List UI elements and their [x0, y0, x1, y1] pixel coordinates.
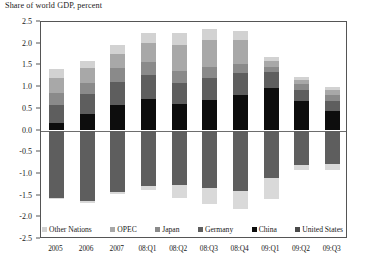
bar-segment[interactable] — [264, 88, 279, 130]
bar-group[interactable] — [264, 22, 279, 237]
bar-segment[interactable] — [80, 68, 95, 83]
y-axis: 2.52.01.51.00.50.0-0.5-1.0-1.5-2.0-2.5 — [0, 21, 38, 238]
plot-inner — [41, 22, 346, 237]
bar-segment[interactable] — [49, 93, 64, 105]
bar-segment[interactable] — [264, 178, 279, 199]
bar-segment[interactable] — [110, 131, 125, 193]
bar-segment[interactable] — [49, 105, 64, 123]
bar-segment[interactable] — [325, 90, 340, 95]
bar-segment[interactable] — [141, 62, 156, 75]
bar-segment[interactable] — [49, 69, 64, 79]
legend-swatch-icon — [252, 227, 257, 232]
bar-segment[interactable] — [264, 57, 279, 61]
bar-segment[interactable] — [172, 33, 187, 45]
bar-segment[interactable] — [294, 101, 309, 131]
bar-segment[interactable] — [172, 71, 187, 82]
bar-segment[interactable] — [233, 64, 248, 74]
bar-segment[interactable] — [80, 201, 95, 203]
x-axis: 20052006200708:Q108:Q208:Q308:Q409:Q109:… — [40, 239, 347, 256]
y-axis-label: 1.5 — [22, 60, 32, 69]
y-axis-label: 2.0 — [22, 38, 32, 47]
bar-group[interactable] — [49, 22, 64, 237]
bar-segment[interactable] — [49, 78, 64, 92]
bar-segment[interactable] — [325, 164, 340, 169]
bar-segment[interactable] — [172, 131, 187, 185]
bar-segment[interactable] — [325, 101, 340, 111]
bar-stack — [233, 22, 248, 237]
bar-segment[interactable] — [141, 131, 156, 187]
bar-segment[interactable] — [264, 131, 279, 179]
bar-segment[interactable] — [325, 131, 340, 165]
legend-item[interactable]: OPEC — [110, 225, 136, 234]
bar-segment[interactable] — [141, 99, 156, 130]
bar-segment[interactable] — [49, 131, 64, 198]
bar-segment[interactable] — [294, 77, 309, 80]
bar-segment[interactable] — [202, 67, 217, 77]
bar-segment[interactable] — [110, 45, 125, 54]
bar-segment[interactable] — [233, 95, 248, 131]
chart-title: Share of world GDP, percent — [5, 1, 102, 10]
bar-segment[interactable] — [294, 90, 309, 101]
bar-segment[interactable] — [80, 131, 95, 201]
bar-segment[interactable] — [294, 165, 309, 169]
bar-segment[interactable] — [202, 29, 217, 40]
bar-segment[interactable] — [141, 33, 156, 43]
bar-segment[interactable] — [172, 83, 187, 104]
bar-segment[interactable] — [294, 80, 309, 84]
bar-stack — [49, 22, 64, 237]
plot-area — [40, 21, 347, 238]
bar-segment[interactable] — [172, 185, 187, 198]
legend-item[interactable]: Other Nations — [42, 225, 92, 234]
bar-segment[interactable] — [233, 191, 248, 209]
bar-segment[interactable] — [141, 75, 156, 99]
bar-segment[interactable] — [233, 40, 248, 64]
x-axis-label: 09:Q1 — [261, 244, 279, 253]
bar-group[interactable] — [233, 22, 248, 237]
bar-segment[interactable] — [294, 84, 309, 90]
bar-segment[interactable] — [202, 40, 217, 67]
bar-group[interactable] — [80, 22, 95, 237]
bar-segment[interactable] — [110, 192, 125, 194]
bar-segment[interactable] — [202, 188, 217, 204]
bar-group[interactable] — [325, 22, 340, 237]
bar-segment[interactable] — [110, 82, 125, 105]
bar-group[interactable] — [172, 22, 187, 237]
legend-item[interactable]: United States — [295, 225, 343, 234]
bar-segment[interactable] — [233, 131, 248, 192]
bar-group[interactable] — [202, 22, 217, 237]
bar-segment[interactable] — [325, 111, 340, 130]
bar-segment[interactable] — [49, 123, 64, 130]
bar-segment[interactable] — [110, 54, 125, 69]
bar-segment[interactable] — [80, 94, 95, 114]
bar-segment[interactable] — [172, 45, 187, 71]
bar-segment[interactable] — [80, 61, 95, 68]
bar-segment[interactable] — [110, 68, 125, 81]
bar-group[interactable] — [294, 22, 309, 237]
bar-segment[interactable] — [202, 78, 217, 101]
bar-segment[interactable] — [141, 43, 156, 63]
bar-segment[interactable] — [49, 198, 64, 199]
bar-segment[interactable] — [202, 100, 217, 130]
legend-item[interactable]: Japan — [155, 225, 179, 234]
y-axis-label: -1.0 — [19, 168, 32, 177]
y-axis-label: 0.0 — [22, 125, 32, 134]
bar-segment[interactable] — [172, 104, 187, 131]
legend-item[interactable]: Germany — [198, 225, 233, 234]
bar-segment[interactable] — [110, 105, 125, 131]
bar-segment[interactable] — [202, 131, 217, 188]
bar-segment[interactable] — [80, 83, 95, 94]
bar-group[interactable] — [110, 22, 125, 237]
bar-segment[interactable] — [80, 114, 95, 130]
bar-group[interactable] — [141, 22, 156, 237]
bar-stack — [325, 22, 340, 237]
bar-segment[interactable] — [233, 31, 248, 40]
bar-segment[interactable] — [233, 73, 248, 95]
bar-segment[interactable] — [141, 186, 156, 189]
bar-segment[interactable] — [264, 72, 279, 88]
bar-segment[interactable] — [264, 61, 279, 66]
bar-segment[interactable] — [325, 95, 340, 101]
legend-item[interactable]: China — [252, 225, 277, 234]
bar-segment[interactable] — [264, 67, 279, 72]
bar-segment[interactable] — [294, 131, 309, 166]
bar-segment[interactable] — [325, 87, 340, 90]
